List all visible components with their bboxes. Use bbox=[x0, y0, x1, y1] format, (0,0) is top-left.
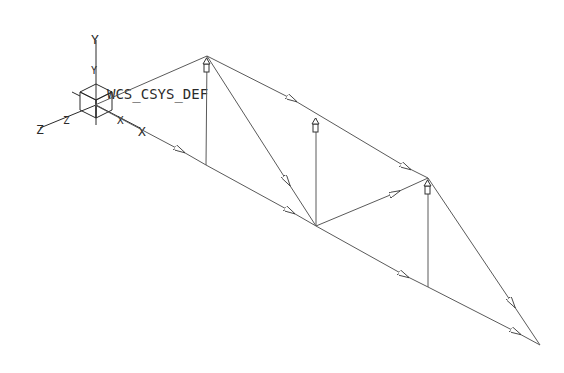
y-axis-label: Y bbox=[91, 32, 99, 47]
force-arrow-icon bbox=[313, 124, 318, 132]
csys-label: WCS_CSYS_DEF bbox=[107, 86, 208, 103]
z-axis-label: Z bbox=[36, 122, 44, 137]
member-origin-bot1 bbox=[95, 105, 206, 165]
member-top2-tip bbox=[428, 178, 540, 345]
cad-viewport[interactable]: Y Y Z Z X X WCS_CSYS_DEF bbox=[0, 0, 564, 373]
z-axis-small-label: Z bbox=[63, 114, 70, 127]
force-arrows bbox=[203, 58, 431, 194]
member-bot2-tip bbox=[428, 287, 540, 345]
y-axis-small-label: Y bbox=[91, 65, 97, 76]
member-top1-top2 bbox=[207, 56, 428, 178]
member-bot1-mid bbox=[206, 165, 316, 226]
x-axis-small-label: X bbox=[117, 114, 124, 127]
force-arrowhead-icon bbox=[312, 118, 319, 124]
force-arrow-icon bbox=[204, 64, 209, 72]
force-arrow-icon bbox=[425, 186, 430, 194]
member-mid-top2 bbox=[316, 178, 428, 226]
member-top1-mid bbox=[207, 56, 316, 226]
truss-diagram: Y Y Z Z X X WCS_CSYS_DEF bbox=[0, 0, 564, 373]
member-mid-bot2 bbox=[316, 226, 428, 287]
